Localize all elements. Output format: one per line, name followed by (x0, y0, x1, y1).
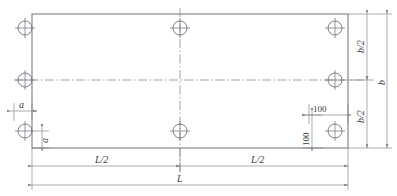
hole-bottom-right (325, 121, 345, 141)
dim-label-half-width-bottom: b/2 (355, 110, 366, 123)
dim-label-hole-inset-vertical: 100 (301, 132, 311, 146)
plate-outline (32, 14, 348, 148)
dim-label-half-length-right: L/2 (250, 154, 264, 165)
hole-top-center (170, 18, 190, 38)
hole-group (15, 18, 345, 141)
dim-hole-inset-vertical: 100 (301, 112, 323, 151)
dim-label-hole-inset-horizontal: 100 (313, 104, 327, 114)
technical-drawing-canvas: a a 100 100 (0, 0, 397, 196)
dim-hole-inset-horizontal: 100 (306, 104, 351, 124)
hole-mid-right (325, 70, 345, 90)
dim-label-half-length-left: L/2 (94, 154, 108, 165)
hole-bottom-center (170, 121, 190, 141)
dim-length-group: L/2 L/2 L (32, 148, 348, 190)
dim-label-edge-offset-vertical: a (39, 138, 50, 143)
hole-top-right (325, 18, 345, 38)
dim-label-half-width-top: b/2 (355, 40, 366, 53)
plate-layout-drawing: a a 100 100 (0, 0, 397, 196)
dim-label-full-length: L (176, 173, 183, 184)
dim-edge-offset-horizontal: a (11, 99, 37, 121)
centerlines-group (14, 8, 366, 172)
dim-label-edge-offset-horizontal: a (19, 99, 24, 110)
dim-width-group: b/2 b/2 b (348, 14, 392, 148)
dim-label-full-width: b (376, 80, 387, 85)
